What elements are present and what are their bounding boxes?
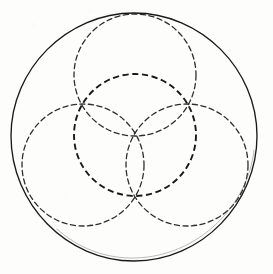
circle-construction-diagram: Overlapping circles geometric constructi… [0,0,273,274]
figure-canvas: Overlapping circles geometric constructi… [0,0,273,274]
